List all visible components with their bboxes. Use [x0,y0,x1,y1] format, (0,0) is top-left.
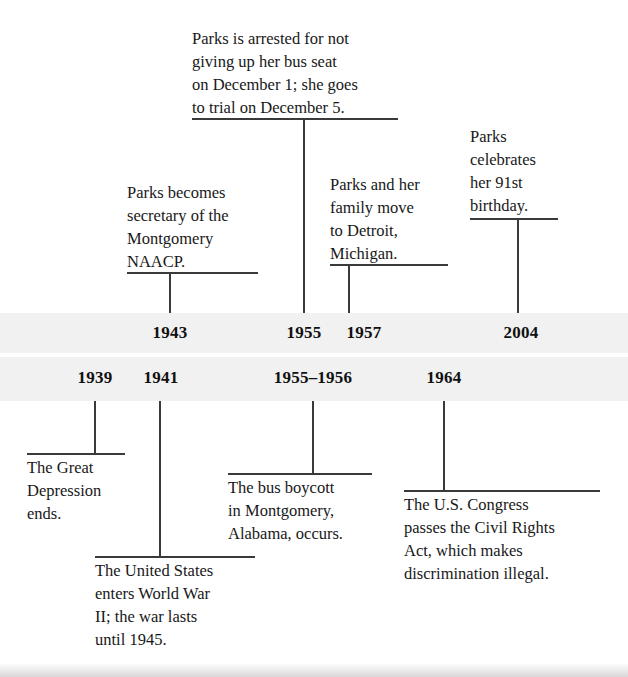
year-label-1955-1956: 1955–1956 [274,368,352,388]
event-stem-1955-1956-lower [312,401,314,473]
event-caption-2004-upper: Parks celebrates her 91st birthday. [470,125,580,217]
event-caption-1943-upper: Parks becomes secretary of the Montgomer… [127,181,262,273]
event-stem-1939-lower [94,401,96,453]
event-caption-1964-lower: The U.S. Congress passes the Civil Right… [404,493,609,585]
event-rule-1943-upper [127,272,258,274]
event-stem-2004-upper [517,218,519,314]
year-label-1939: 1939 [78,368,113,388]
event-caption-1957-upper: Parks and her family move to Detroit, Mi… [330,173,450,265]
page-bottom-shadow [0,655,628,677]
event-rule-1964-lower [404,490,600,492]
event-stem-1955-upper [303,118,305,314]
event-stem-1964-lower [443,401,445,490]
year-label-2004: 2004 [504,323,539,343]
year-label-1943: 1943 [153,323,188,343]
event-caption-1955-1956-lower: The bus boycott in Montgomery, Alabama, … [228,476,378,545]
event-stem-1943-upper [169,272,171,314]
event-caption-1955-upper: Parks is arrested for not giving up her … [192,27,407,119]
event-rule-1955-1956-lower [228,473,372,475]
year-label-1941: 1941 [144,368,179,388]
event-rule-1941-lower [95,556,255,558]
event-rule-2004-upper [470,218,558,220]
event-stem-1957-upper [348,264,350,314]
year-label-1955-upper: 1955 [287,323,322,343]
year-label-1964: 1964 [427,368,462,388]
year-label-1957: 1957 [347,323,382,343]
event-caption-1941-lower: The United States enters World War II; t… [95,559,263,651]
timeline-page: Parks is arrested for not giving up her … [0,0,628,677]
event-rule-1955-upper [192,118,398,120]
event-caption-1939-lower: The Great Depression ends. [27,456,137,525]
event-stem-1941-lower [159,401,161,556]
event-rule-1939-lower [27,453,125,455]
